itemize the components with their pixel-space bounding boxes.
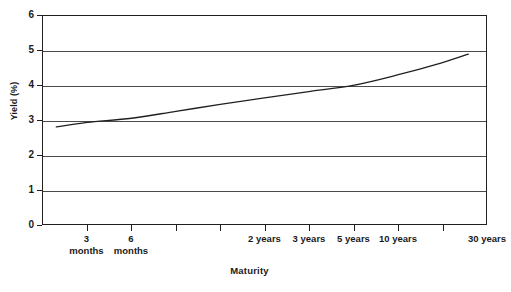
x-tick-mark: [87, 225, 88, 231]
x-tick-label: 6 months: [86, 233, 176, 257]
y-tick-label: 3: [18, 115, 34, 125]
x-tick-mark: [176, 225, 177, 231]
x-tick-mark: [398, 225, 399, 231]
y-tick-label: 6: [18, 10, 34, 20]
y-tick-mark: [37, 225, 42, 226]
x-tick-label: 10 years: [353, 233, 443, 245]
y-tick-label: 4: [18, 80, 34, 90]
y-tick-label: 2: [18, 150, 34, 160]
x-tick-label: 30 years: [442, 233, 511, 245]
x-tick-mark: [265, 225, 266, 231]
yield-curve-path: [56, 54, 468, 127]
y-tick-label: 0: [18, 220, 34, 230]
x-tick-mark: [354, 225, 355, 231]
x-axis-title: Maturity: [0, 265, 499, 276]
y-tick-label: 1: [18, 185, 34, 195]
plot-area: [42, 15, 487, 225]
yield-curve-line-svg: [43, 16, 486, 224]
x-tick-mark: [443, 225, 444, 231]
y-tick-label: 5: [18, 45, 34, 55]
x-tick-mark: [131, 225, 132, 231]
x-tick-mark: [309, 225, 310, 231]
x-tick-mark: [220, 225, 221, 231]
y-axis-title: Yield (%): [9, 61, 19, 141]
